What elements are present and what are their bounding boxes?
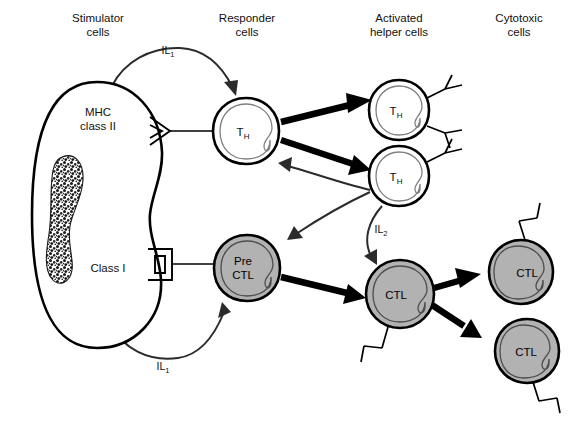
feedback-arrow-to-pre-ctl [287,192,370,240]
activated-th-cell-bottom: TH [369,139,462,206]
responder-th-cell: TH [213,98,279,164]
ctl-bottom-right-label: CTL [515,346,537,358]
column-header-activated-helper-line2: helper cells [370,26,428,38]
column-header-cytotoxic-line2: cells [507,26,530,38]
pre-ctl-label-line2: CTL [232,269,254,281]
ctl-cell-bottom-right: CTL [495,319,560,413]
ctl-top-right-receptor [519,203,540,240]
ctl-center-label: CTL [385,289,407,301]
column-header-responder-line2: cells [235,26,258,38]
mhc-class-ii-label: MHC [85,106,111,118]
il2-signal-arrow: IL2 [364,206,387,265]
il1-top-signal-arrow: IL1 [112,44,238,96]
il1-bottom-label: IL1 [157,360,170,375]
column-header-responder: Responder [219,12,275,24]
class-i-label: Class I [90,262,125,274]
activated-th-cell-top: TH [369,75,462,148]
arrow-responder-to-activated-th-bottom [281,140,371,175]
activated-th-bottom-receptors [427,139,462,162]
il1-top-label: IL1 [162,44,175,59]
activated-th-top-receptors [427,75,462,148]
ctl-bottom-right-receptor [533,382,560,413]
ctl-cell-center: CTL [361,260,434,362]
column-headers: Stimulator cells Responder cells Activat… [72,12,543,38]
arrow-responder-to-activated-th-top [281,93,372,122]
ctl-center-receptor [361,327,388,362]
column-header-stimulator-line2: cells [86,26,109,38]
il2-label: IL2 [375,223,388,238]
column-header-cytotoxic: Cytotoxic [495,12,543,24]
ctl-cell-top-right: CTL [489,203,553,304]
column-header-stimulator: Stimulator [72,12,124,24]
column-header-activated-helper: Activated [375,12,422,24]
ctl-top-right-label: CTL [516,267,538,279]
arrow-ctl-to-ctl-top-right [434,268,481,288]
mhc-class-ii-label-line2: class II [80,120,116,132]
pre-ctl-cell: Pre CTL [214,235,280,301]
arrow-ctl-to-ctl-bottom-right [432,305,482,338]
immunology-diagram: Stimulator cells Responder cells Activat… [0,0,588,436]
stimulator-cell: MHC class II Class I [32,82,162,348]
arrow-pre-ctl-to-ctl [281,277,366,304]
pre-ctl-label-line1: Pre [234,255,252,267]
